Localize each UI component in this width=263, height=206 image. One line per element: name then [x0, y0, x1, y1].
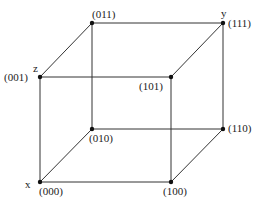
vertex-label-000: (000) [39, 186, 63, 197]
vertex-010 [90, 127, 94, 131]
cube-graphic [0, 0, 263, 206]
vertex-110 [221, 127, 225, 131]
vertex-label-101: (101) [139, 81, 163, 92]
edge-001-011 [40, 23, 92, 77]
axis-label-z: z [33, 63, 38, 74]
vertex-label-111: (111) [228, 18, 251, 29]
vertex-label-011: (011) [92, 9, 115, 20]
vertex-000 [38, 180, 42, 184]
axis-label-y: y [221, 8, 227, 19]
vertex-100 [169, 180, 173, 184]
vertex-label-010: (010) [89, 133, 113, 144]
vertex-label-110: (110) [228, 123, 251, 134]
edge-101-111 [171, 23, 223, 77]
edge-100-110 [171, 129, 223, 182]
edge-000-010 [40, 129, 92, 182]
vertex-101 [169, 75, 173, 79]
vertex-111 [221, 21, 225, 25]
vertex-label-100: (100) [163, 186, 187, 197]
axis-label-x: x [25, 179, 31, 190]
vertex-011 [90, 21, 94, 25]
vertex-label-001: (001) [4, 72, 28, 83]
vertex-001 [38, 75, 42, 79]
cube-diagram: (000)(100)(010)(110)(001)(101)(011)(111)… [0, 0, 263, 206]
